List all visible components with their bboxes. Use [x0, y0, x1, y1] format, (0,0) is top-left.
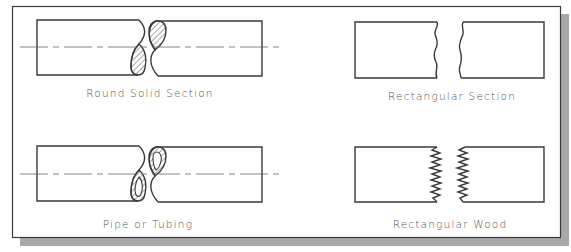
label-round-solid-section: Round Solid Section: [86, 87, 213, 99]
conventional-break-lines-figure: Round Solid Section Rectangular Section …: [0, 0, 571, 252]
label-rectangular-section: Rectangular Section: [388, 90, 516, 102]
label-rectangular-wood: Rectangular Wood: [393, 218, 508, 230]
figure-frame: [13, 7, 561, 238]
label-pipe-or-tubing: Pipe or Tubing: [103, 218, 193, 230]
